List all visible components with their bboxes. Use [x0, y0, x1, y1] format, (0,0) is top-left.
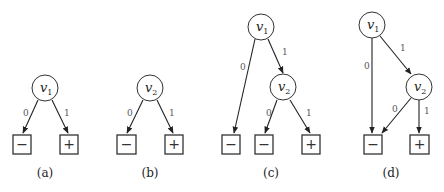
- leaf-label: −: [121, 136, 133, 152]
- panel-a: 0 1 v1 − + (a): [13, 75, 78, 180]
- edge-label: 0: [23, 108, 29, 118]
- panel-b: 0 1 v2 − + (b): [117, 75, 183, 180]
- edge-label: 0: [364, 61, 370, 71]
- edge-label: 1: [306, 108, 312, 118]
- edge-label: 0: [392, 104, 398, 114]
- panel-c: 0 1 0 1 v1 v2 − − + (c): [222, 14, 320, 180]
- panel-caption: (a): [37, 166, 54, 180]
- edge-label: 0: [127, 108, 133, 118]
- edge-label: 1: [400, 43, 406, 53]
- bdd-figure: 0 1 v1 − + (a) 0 1 v2 − + (b) 0 1 0 1 v1…: [0, 0, 444, 192]
- edge-label: 0: [266, 108, 272, 118]
- edge-label: 1: [169, 108, 175, 118]
- edge-v1-minus: [234, 39, 255, 133]
- leaf-label: −: [16, 136, 28, 152]
- edge-label: 0: [240, 62, 246, 72]
- leaf-label: −: [367, 136, 379, 152]
- edge-v1-v2: [268, 39, 283, 73]
- leaf-label: +: [414, 136, 426, 152]
- leaf-label: −: [258, 136, 270, 152]
- panel-caption: (c): [263, 166, 279, 180]
- edge-v1-v2: [380, 36, 411, 74]
- leaf-label: −: [225, 136, 237, 152]
- leaf-label: +: [168, 136, 180, 152]
- edge-label: 1: [424, 106, 430, 116]
- leaf-label: +: [305, 136, 317, 152]
- edge-label: 1: [282, 47, 288, 57]
- leaf-label: +: [63, 136, 75, 152]
- panel-caption: (b): [141, 166, 158, 180]
- panel-d: 0 1 0 1 v1 v2 − + (d): [359, 12, 432, 180]
- panel-caption: (d): [382, 166, 399, 180]
- edge-label: 1: [64, 108, 70, 118]
